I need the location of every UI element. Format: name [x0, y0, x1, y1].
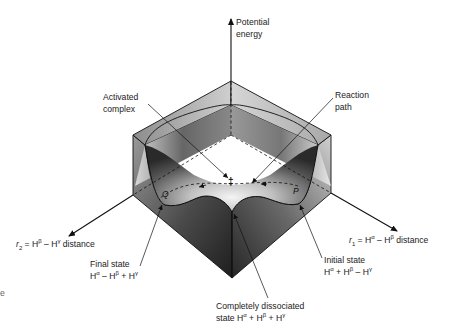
r1-axis — [331, 193, 397, 231]
point-q-label: Q — [162, 189, 169, 199]
activated-complex-label: Activated complex — [103, 91, 138, 115]
point-p-label: P — [293, 186, 299, 196]
reaction-path-label: Reaction path — [335, 89, 369, 113]
cropped-text-fragment: e — [0, 287, 5, 299]
r1-axis-label: r1 = Hα – Hβ distance — [349, 234, 428, 246]
saddle-point-marker: ‡ — [228, 176, 234, 187]
final-state-leader — [140, 205, 162, 266]
initial-state-leader — [300, 205, 322, 258]
final-state-label: Final state Hα – Hβ + Hγ — [90, 258, 138, 282]
potential-energy-surface-diagram: ‡ Q P Potential energy Activated complex… — [0, 0, 455, 334]
r2-axis — [69, 195, 133, 236]
dissociated-state-label: Completely dissociated state Hα + Hβ + H… — [216, 300, 304, 324]
potential-energy-label: Potential energy — [236, 16, 269, 40]
surface-figure — [0, 0, 455, 334]
r2-axis-label: r2 = Hβ – Hγ distance — [16, 238, 95, 250]
initial-state-label: Initial state Hα + Hβ – Hγ — [324, 254, 372, 278]
